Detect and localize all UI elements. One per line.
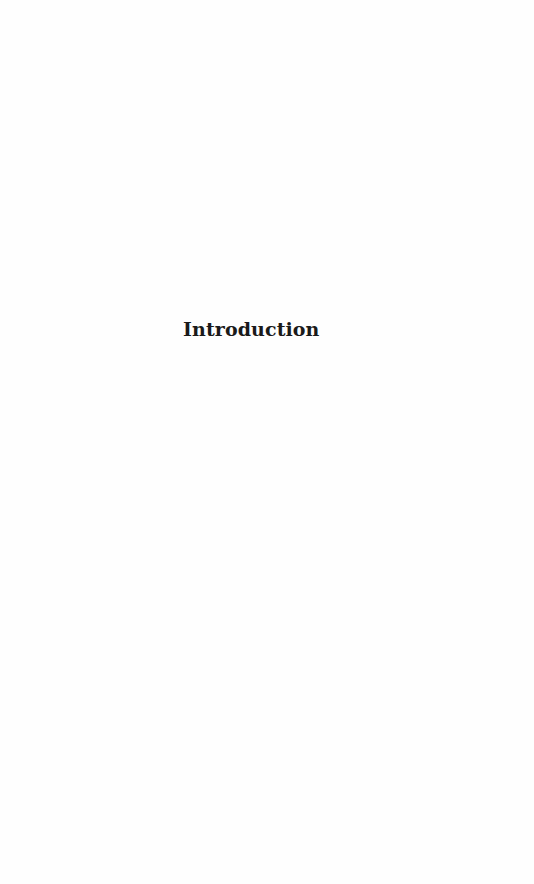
document-page: Introduction [0, 0, 534, 884]
section-heading: Introduction [183, 317, 320, 341]
